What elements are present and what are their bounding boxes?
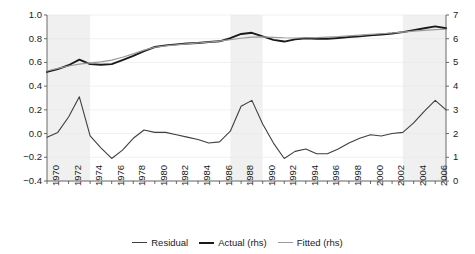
recession-band-1 (47, 15, 90, 181)
recession-band-2 (230, 15, 262, 181)
chart-legend: ResidualActual (rhs)Fitted (rhs) (0, 237, 475, 248)
y-axis-right-tick-label: 4 (453, 81, 458, 91)
legend-line-swatch (199, 242, 214, 244)
legend-item: Fitted (rhs) (278, 237, 343, 248)
y-axis-right-tick-label: 1 (453, 152, 458, 162)
x-axis-tick-label: 1986 (224, 165, 234, 186)
y-axis-right-tick-label: 5 (453, 57, 458, 67)
y-axis-right-tick-label: 6 (453, 34, 458, 44)
y-axis-left-tick-label: 0.4 (4, 81, 42, 91)
x-axis-tick-label: 1972 (73, 165, 83, 186)
y-axis-left-tick-label: −0.4 (4, 176, 42, 186)
legend-label: Fitted (rhs) (297, 237, 343, 248)
legend-line-swatch (278, 242, 293, 243)
y-axis-right-tick-label: 3 (453, 105, 458, 115)
y-axis-left-tick-label: 0.0 (4, 129, 42, 139)
x-axis-tick-label: 1996 (331, 165, 341, 186)
x-axis-tick-label: 2002 (396, 165, 406, 186)
chart-container: −0.4−0.20.00.20.40.60.81.0 01234567 1970… (0, 0, 475, 254)
x-axis-tick-label: 1998 (353, 165, 363, 186)
y-axis-left-tick-label: 0.8 (4, 34, 42, 44)
x-axis-tick-label: 2000 (375, 165, 385, 186)
x-axis-tick-label: 1980 (159, 165, 169, 186)
y-axis-right-tick-label: 2 (453, 129, 458, 139)
y-axis-left-tick-label: −0.2 (4, 152, 42, 162)
legend-label: Residual (151, 237, 188, 248)
x-axis-tick-label: 1974 (94, 165, 104, 186)
x-axis-tick-label: 1994 (310, 165, 320, 186)
y-axis-left-tick-label: 1.0 (4, 10, 42, 20)
legend-item: Actual (rhs) (199, 237, 267, 248)
y-axis-right-tick-label: 7 (453, 10, 458, 20)
x-axis-tick-label: 1992 (288, 165, 298, 186)
recession-band-3 (403, 15, 446, 181)
legend-line-swatch (132, 242, 147, 243)
x-axis-tick-label: 1982 (180, 165, 190, 186)
x-axis-tick-label: 1990 (267, 165, 277, 186)
chart-plot-svg (0, 0, 475, 254)
x-axis-tick-label: 2006 (439, 165, 449, 186)
x-axis-tick-label: 1978 (137, 165, 147, 186)
x-axis-tick-label: 2004 (418, 165, 428, 186)
y-axis-left-tick-label: 0.6 (4, 57, 42, 67)
x-axis-tick-label: 1970 (51, 165, 61, 186)
legend-label: Actual (rhs) (218, 237, 267, 248)
y-axis-left-tick-label: 0.2 (4, 105, 42, 115)
x-axis-tick-label: 1988 (245, 165, 255, 186)
x-axis-tick-label: 1984 (202, 165, 212, 186)
legend-item: Residual (132, 237, 188, 248)
y-axis-right-tick-label: 0 (453, 176, 458, 186)
x-axis-tick-label: 1976 (116, 165, 126, 186)
